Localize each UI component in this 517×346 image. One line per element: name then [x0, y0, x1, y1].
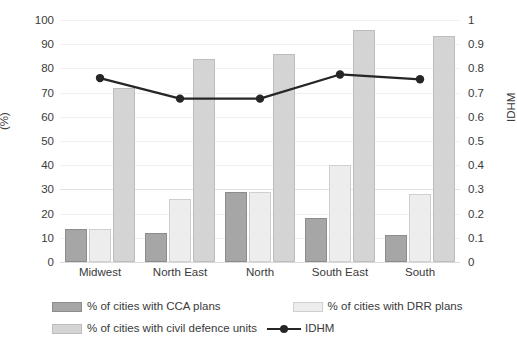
y-axis-right-tick-label: 0.4 — [468, 159, 508, 171]
plot-area — [60, 20, 460, 262]
legend-line-swatch-icon — [267, 324, 301, 334]
idhm-line-series — [60, 20, 460, 262]
legend-label: % of cities with DRR plans — [328, 301, 463, 313]
legend-item-of-cities-with-drr-plans[interactable]: % of cities with DRR plans — [293, 301, 463, 313]
y-axis-left-tick-label: 70 — [14, 87, 54, 99]
y-axis-right-tick-label: 0.7 — [468, 87, 508, 99]
y-axis-left-tick-label: 40 — [14, 159, 54, 171]
legend-item-idhm[interactable]: IDHM — [267, 323, 334, 335]
y-axis-right-tick-label: 0.1 — [468, 232, 508, 244]
legend-item-of-cities-with-cca-plans[interactable]: % of cities with CCA plans — [52, 301, 221, 313]
idhm-marker-south-east — [336, 70, 344, 78]
idhm-marker-north-east — [176, 94, 184, 102]
idhm-marker-midwest — [96, 74, 104, 82]
y-axis-left-tick-label: 60 — [14, 111, 54, 123]
idhm-marker-north — [256, 94, 264, 102]
y-axis-right-tick-label: 0.9 — [468, 38, 508, 50]
y-axis-left-tick-label: 0 — [14, 256, 54, 268]
y-axis-left-title: (%) — [0, 112, 10, 130]
y-axis-left-tick-label: 20 — [14, 208, 54, 220]
legend-color-swatch-icon — [52, 324, 82, 334]
chart-page: (%) IDHM 0102030405060708090100 00.10.20… — [0, 0, 517, 346]
x-axis-tick-label: South — [405, 266, 435, 278]
y-axis-left-tick-label: 30 — [14, 183, 54, 195]
y-axis-right-tick-label: 0.5 — [468, 135, 508, 147]
idhm-marker-south — [416, 75, 424, 83]
y-axis-left-tick-label: 80 — [14, 62, 54, 74]
x-axis-tick-label: South East — [312, 266, 368, 278]
gridline — [60, 262, 460, 263]
legend-color-swatch-icon — [52, 302, 82, 312]
y-axis-right-tick-label: 1 — [468, 14, 508, 26]
chart-legend: % of cities with CCA plans% of cities wi… — [52, 296, 482, 340]
x-axis-tick-label: North — [246, 266, 274, 278]
y-axis-right-tick-label: 0.8 — [468, 62, 508, 74]
legend-row: % of cities with civil defence unitsIDHM — [52, 318, 482, 340]
y-axis-left-tick-label: 50 — [14, 135, 54, 147]
legend-label: IDHM — [305, 323, 334, 335]
y-axis-left-tick-label: 10 — [14, 232, 54, 244]
x-axis-tick-label: Midwest — [79, 266, 121, 278]
legend-item-of-cities-with-civil-defence-units[interactable]: % of cities with civil defence units — [52, 323, 257, 335]
x-axis-tick-label: North East — [153, 266, 207, 278]
y-axis-right-tick-label: 0.6 — [468, 111, 508, 123]
legend-label: % of cities with CCA plans — [87, 301, 221, 313]
y-axis-right-tick-label: 0.3 — [468, 183, 508, 195]
y-axis-right-tick-label: 0 — [468, 256, 508, 268]
y-axis-left-tick-label: 100 — [14, 14, 54, 26]
legend-label: % of cities with civil defence units — [87, 323, 257, 335]
y-axis-left-tick-label: 90 — [14, 38, 54, 50]
legend-row: % of cities with CCA plans% of cities wi… — [52, 296, 482, 318]
y-axis-right-tick-label: 0.2 — [468, 208, 508, 220]
legend-color-swatch-icon — [293, 302, 323, 312]
